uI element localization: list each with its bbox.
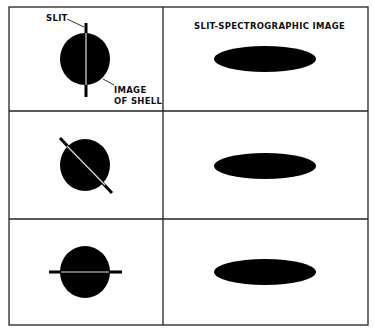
slit-label: SLIT — [46, 13, 68, 23]
image-of-shell-label-2: OF SHELL — [114, 96, 163, 106]
row-3-shell — [49, 246, 122, 298]
row-2-spectrographic-image — [214, 153, 316, 179]
shell-leader-line — [103, 79, 114, 85]
image-of-shell-label-1: IMAGE — [114, 85, 146, 95]
spectrographic-image-title: SLIT-SPECTROGRAPHIC IMAGE — [194, 21, 345, 31]
row-1-shell: SLIT IMAGE OF SHELL — [46, 13, 163, 106]
row-1-spectrographic-image — [214, 46, 316, 72]
row-2-shell — [60, 138, 112, 193]
slit-spectrograph-diagram: SLIT IMAGE OF SHELL SLIT-SPECTROGRAPHIC … — [0, 0, 374, 333]
slit-leader-line — [67, 19, 84, 27]
row-3-spectrographic-image — [214, 259, 316, 285]
